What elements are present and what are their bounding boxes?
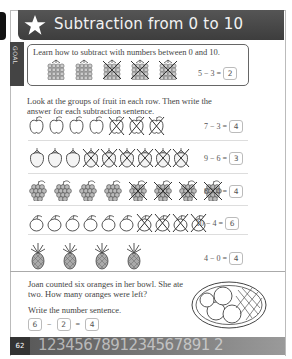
operand-a: 5 [198,69,202,78]
blackberry-icon [102,58,122,80]
lemon-icon [118,211,135,233]
goal-box: Learn how to subtract with numbers betwe… [27,44,249,86]
subtraction-equation: 10−4=6 [196,217,239,230]
lemon-icon [46,211,63,233]
answer-box[interactable]: 2 [223,67,237,80]
goal-fruit-group [46,58,178,80]
apple-icon [108,114,125,136]
equals-sign: = [223,254,228,263]
grapes-icon [153,179,173,201]
strawberry-icon [82,146,100,168]
operand-a: 4 [204,254,208,263]
subtraction-equation: 9−6=3 [204,152,243,165]
word-problem-equation: 6 − 2 = 4 [28,318,99,331]
fruit-group [28,114,165,136]
apple-icon [88,114,105,136]
pineapple-icon [60,240,80,270]
answer-box[interactable]: 4 [229,185,243,198]
fruit-group [28,211,207,233]
apple-icon [68,114,85,136]
minus-sign: − [210,254,215,263]
grapes-icon [103,179,123,201]
answer-box[interactable]: 4 [229,252,243,265]
subtraction-equation: 7−3=4 [204,120,243,133]
fruit-row: 9−6=3 [28,144,248,172]
lemon-icon [154,211,171,233]
strawberry-icon [46,146,64,168]
operand-b: 4 [213,219,217,228]
answer-box[interactable]: 4 [229,120,243,133]
row-divider [28,205,248,206]
equals-sign: = [76,320,81,329]
subtraction-equation: 8−4=4 [204,185,243,198]
section-divider [10,271,285,272]
minus-sign: − [210,154,215,163]
fruit-group [28,146,190,168]
footer-digit-strip: 1234567891234567891 2 [38,336,223,354]
fruit-row: 4−0=4 [28,238,248,272]
equals-sign: = [219,219,224,228]
equals-sign: = [223,187,228,196]
fruit-row: 8−4=4 [28,177,248,205]
fruit-row: 10−4=6 [28,209,248,237]
operand-b: 6 [217,154,221,163]
strawberry-icon [136,146,154,168]
operand-b-box[interactable]: 2 [57,318,71,331]
fruit-row: 7−3=4 [28,112,248,140]
page-title: Subtraction from 0 to 10 [54,15,243,33]
answer-box[interactable]: 6 [225,217,239,230]
blackberry-icon [74,58,94,80]
fruit-group [28,179,223,201]
operand-b: 3 [211,69,215,78]
star-icon [24,14,46,36]
strawberry-icon [118,146,136,168]
minus-sign: − [204,69,209,78]
lemon-icon [136,211,153,233]
grapes-icon [178,179,198,201]
word-problem-question: Joan counted six oranges in her bowl. Sh… [28,279,198,299]
goal-label-strip: GOAL [10,42,24,86]
answer-box[interactable]: 4 [85,318,99,331]
strawberry-icon [100,146,118,168]
pineapple-icon [124,240,144,270]
goal-equation: 5 − 3 = 2 [198,67,237,80]
operand-a: 9 [204,154,208,163]
operand-a: 10 [196,219,204,228]
title-banner: Subtraction from 0 to 10 [18,10,284,40]
strawberry-icon [172,146,190,168]
minus-sign: − [206,219,211,228]
answer-box[interactable]: 3 [229,152,243,165]
lemon-icon [64,211,81,233]
blackberry-icon [130,58,150,80]
page-footer: 62 1234567891234567891 2 [10,337,285,355]
row-divider [28,234,248,235]
bowl-of-oranges-icon [190,280,268,330]
blackberry-icon [158,58,178,80]
operand-b: 3 [217,122,221,131]
goal-text: Learn how to subtract with numbers betwe… [33,47,220,57]
operand-a: 7 [204,122,208,131]
page-number: 62 [10,337,30,355]
operand-a-box[interactable]: 6 [28,318,42,331]
apple-icon [48,114,65,136]
strawberry-icon [64,146,82,168]
pineapple-icon [92,240,112,270]
grapes-icon [78,179,98,201]
strawberry-icon [28,146,46,168]
operand-a: 8 [204,187,208,196]
blackberry-icon [46,58,66,80]
equals-sign: = [223,122,228,131]
apple-icon [28,114,45,136]
apple-icon [148,114,165,136]
lemon-icon [82,211,99,233]
lemon-icon [100,211,117,233]
subtraction-equation: 4−0=4 [204,252,243,265]
word-problem: Joan counted six oranges in her bowl. Sh… [28,279,198,321]
row-divider [28,173,248,174]
strawberry-icon [154,146,172,168]
operand-b: 0 [217,254,221,263]
pineapple-icon [28,240,48,270]
row-divider [28,140,248,141]
minus-sign: − [210,187,215,196]
equals-sign: = [217,69,222,78]
